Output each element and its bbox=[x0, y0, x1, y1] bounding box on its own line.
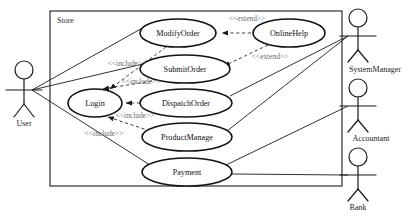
use-case-label: Payment bbox=[173, 168, 202, 177]
use-case-label: SubmitOrder bbox=[164, 65, 207, 74]
assoc-bank-payment bbox=[232, 174, 348, 175]
actor-label: Bank bbox=[350, 203, 367, 212]
actor-leg-right-icon bbox=[358, 120, 368, 132]
actor-leg-right-icon bbox=[24, 104, 34, 117]
actor-label: SystemManager bbox=[349, 65, 401, 74]
diagram-svg: Store ModifyOrder bbox=[0, 0, 419, 220]
actor-leg-left-icon bbox=[348, 50, 358, 62]
actor-leg-right-icon bbox=[358, 50, 368, 62]
actor-head-icon bbox=[349, 148, 367, 166]
assoc-accountant-payment bbox=[224, 106, 348, 166]
actor-head-icon bbox=[349, 79, 367, 97]
use-case-label: OnlineHelp bbox=[270, 29, 308, 38]
assoc-systemmanager-product-manage bbox=[227, 36, 348, 131]
actor-head-icon bbox=[349, 9, 367, 27]
use-case-label: ProductManage bbox=[161, 133, 213, 142]
use-case-online-help[interactable]: OnlineHelp bbox=[253, 19, 325, 47]
actor-leg-left-icon bbox=[348, 189, 358, 201]
actor-label: User bbox=[16, 119, 31, 128]
use-case-login[interactable]: Login bbox=[68, 89, 122, 117]
stereotype-include-submitorder: <<include>> bbox=[122, 77, 160, 86]
actor-leg-left-icon bbox=[348, 120, 358, 132]
stereotype-include-modifyorder: <<include>> bbox=[108, 59, 146, 68]
actor-bank[interactable]: Bank bbox=[340, 148, 376, 212]
actor-system-manager[interactable]: SystemManager bbox=[340, 9, 401, 74]
use-case-label: DispatchOrder bbox=[162, 99, 210, 108]
use-cases: ModifyOrder OnlineHelp SubmitOrder Login… bbox=[68, 19, 325, 186]
stereotype-include-productmanage: <<include>> bbox=[85, 129, 123, 138]
actor-head-icon bbox=[15, 61, 33, 79]
actor-leg-right-icon bbox=[358, 189, 368, 201]
actor-leg-left-icon bbox=[14, 104, 24, 117]
use-case-label: ModifyOrder bbox=[156, 29, 200, 38]
use-case-modify-order[interactable]: ModifyOrder bbox=[140, 19, 216, 47]
use-case-diagram-canvas: Store ModifyOrder bbox=[0, 0, 419, 220]
stereotype-extend-submitorder: <<extend>> bbox=[252, 52, 288, 61]
use-case-payment[interactable]: Payment bbox=[142, 158, 232, 186]
use-case-label: Login bbox=[85, 99, 105, 108]
use-case-product-manage[interactable]: ProductManage bbox=[142, 123, 232, 151]
actor-accountant[interactable]: Accountant bbox=[340, 79, 390, 143]
actor-label: Accountant bbox=[353, 134, 391, 143]
stereotype-include-dispatchorder: <<include>> bbox=[116, 111, 154, 120]
boundary-label: Store bbox=[57, 16, 74, 25]
actor-user[interactable]: User bbox=[6, 61, 42, 128]
stereotype-extend-modifyorder: <<extend>> bbox=[229, 14, 265, 23]
